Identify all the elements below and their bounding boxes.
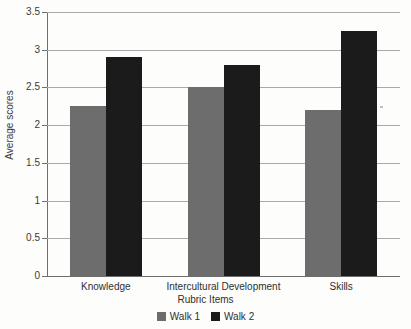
bar-intercultural-development-walk-2	[224, 65, 260, 276]
legend-label: Walk 2	[224, 311, 254, 322]
y-axis-title: Average scores	[5, 85, 15, 165]
legend-swatch-icon	[211, 312, 220, 321]
y-axis-tick-label: 0	[2, 271, 40, 281]
y-axis-tick-label: 0.5	[2, 233, 40, 243]
bar-skills-walk-2	[341, 31, 377, 276]
legend-item-walk-2: Walk 2	[211, 311, 254, 322]
y-axis-tick	[42, 87, 47, 88]
legend-swatch-icon	[157, 312, 166, 321]
bar-skills-walk-1	[305, 110, 341, 276]
category-label-intercultural-development: Intercultural Development	[165, 281, 283, 292]
bar-knowledge-walk-1	[70, 106, 106, 276]
y-axis-tick	[42, 276, 47, 277]
x-axis-title: Rubric Items	[0, 294, 411, 305]
x-axis-baseline	[47, 276, 400, 277]
y-axis-tick	[42, 163, 47, 164]
bar-knowledge-walk-2	[106, 57, 142, 276]
legend-label: Walk 1	[170, 311, 200, 322]
category-label-skills: Skills	[282, 281, 400, 292]
y-axis-tick-label: 3	[2, 45, 40, 55]
y-axis-tick	[42, 125, 47, 126]
bar-intercultural-development-walk-1	[188, 87, 224, 276]
gridline	[47, 12, 400, 13]
grouped-bar-chart: 00.511.522.533.5 Average scores Knowledg…	[0, 0, 411, 329]
scan-artifact-speck	[380, 106, 383, 108]
y-axis-tick	[42, 201, 47, 202]
y-axis-tick	[42, 238, 47, 239]
y-axis-tick-label: 3.5	[2, 7, 40, 17]
y-axis-tick-label: 1	[2, 196, 40, 206]
y-axis-tick	[42, 12, 47, 13]
plot-area	[47, 12, 400, 276]
chart-legend: Walk 1Walk 2	[0, 311, 411, 322]
category-label-knowledge: Knowledge	[47, 281, 165, 292]
legend-item-walk-1: Walk 1	[157, 311, 200, 322]
y-axis-tick	[42, 50, 47, 51]
